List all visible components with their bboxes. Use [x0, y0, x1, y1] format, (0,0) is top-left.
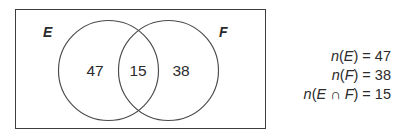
set-label-f: F	[219, 25, 228, 39]
equation-equals-sign: =	[358, 48, 375, 64]
equation-function-name: n	[304, 86, 312, 102]
equation-function-name: n	[331, 48, 339, 64]
equation-equals-sign: =	[358, 86, 375, 102]
equation-function-name: n	[332, 67, 340, 83]
equation-n-of-e-intersect-f: n(E ∩ F) = 15	[304, 85, 391, 104]
set-label-e: E	[43, 25, 52, 39]
equation-n-of-f: n(F) = 38	[304, 66, 391, 85]
region-count-f-only: 38	[172, 63, 189, 79]
region-count-e-only: 47	[86, 63, 103, 79]
region-count-intersection: 15	[129, 63, 146, 79]
equation-equals-sign: =	[358, 67, 375, 83]
equation-value: 47	[375, 48, 391, 64]
equations-list: n(E) = 47 n(F) = 38 n(E ∩ F) = 15	[304, 47, 391, 104]
equation-value: 38	[375, 67, 391, 83]
venn-diagram-figure: E F 47 15 38 n(E) = 47 n(F) = 38 n(E ∩ F…	[0, 0, 407, 140]
intersection-symbol: ∩	[326, 86, 344, 102]
equation-n-of-e: n(E) = 47	[304, 47, 391, 66]
equation-value: 15	[375, 86, 391, 102]
equation-argument-e: E	[316, 86, 326, 102]
